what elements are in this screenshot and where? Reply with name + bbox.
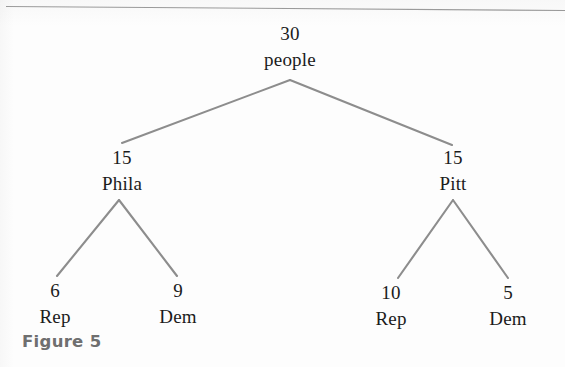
tree-node-pitt: 15 Pitt	[439, 148, 466, 193]
tree-edge-phila-to-phila-rep	[57, 200, 119, 276]
tree-node-phila-rep: 6 Rep	[39, 281, 70, 326]
tree-edge-root-to-phila	[122, 80, 290, 143]
node-count: 5	[489, 283, 527, 302]
tree-node-pitt-rep: 10 Rep	[375, 283, 406, 328]
tree-node-root: 30 people	[264, 24, 316, 69]
node-count: 10	[375, 283, 406, 302]
node-count: 9	[159, 281, 197, 300]
tree-node-phila-dem: 9 Dem	[159, 281, 197, 326]
figure-caption: Figure 5	[22, 332, 101, 351]
tree-node-phila: 15 Phila	[102, 148, 142, 193]
node-label: Pitt	[439, 174, 466, 193]
node-count: 15	[439, 148, 466, 167]
node-count: 30	[264, 24, 316, 43]
node-count: 6	[39, 281, 70, 300]
tree-edge-pitt-to-pitt-rep	[398, 200, 453, 278]
tree-edge-root-to-pitt	[290, 80, 452, 145]
tree-edge-pitt-to-pitt-dem	[453, 200, 508, 278]
node-label: Dem	[159, 307, 197, 326]
node-label: Rep	[375, 309, 406, 328]
figure-page: 30 people 15 Phila 15 Pitt 6 Rep 9 Dem 1…	[0, 0, 565, 367]
node-count: 15	[102, 148, 142, 167]
node-label: Phila	[102, 174, 142, 193]
node-label: Dem	[489, 309, 527, 328]
tree-edge-phila-to-phila-dem	[119, 200, 177, 276]
node-label: Rep	[39, 307, 70, 326]
node-label: people	[264, 50, 316, 69]
tree-node-pitt-dem: 5 Dem	[489, 283, 527, 328]
